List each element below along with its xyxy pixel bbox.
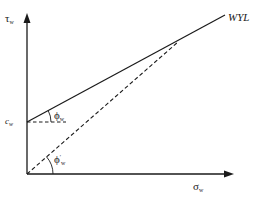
failure-envelope-diagram: [0, 0, 263, 198]
phi-w-prime-label: ϕ′w: [54, 154, 65, 166]
y-axis-arrowhead-icon: [24, 13, 31, 23]
phi-w-angle-arc: [48, 111, 51, 122]
cohesion-intercept-label: cw: [5, 117, 13, 127]
phi-w-label: ϕw: [54, 110, 64, 122]
wyl-envelope-label: WYL: [228, 12, 249, 23]
effective-friction-dashed-line: [27, 42, 178, 174]
x-axis-arrowhead-icon: [224, 171, 234, 178]
y-axis-label: τw: [5, 13, 14, 25]
wyl-envelope-line: [27, 15, 225, 122]
phi-w-prime-angle-arc: [47, 157, 53, 174]
x-axis-label: σw: [193, 181, 203, 193]
